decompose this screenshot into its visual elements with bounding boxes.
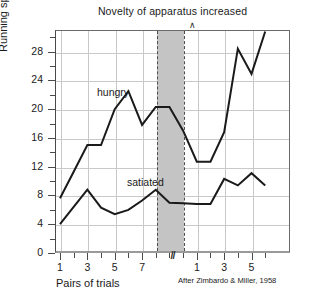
series-line-hungry	[60, 31, 265, 198]
series-lines	[0, 0, 310, 299]
figure-root: Novelty of apparatus increased ∧ Running…	[0, 0, 310, 299]
series-label-hungry: hungry	[97, 86, 129, 98]
series-label-satiated: satiated	[127, 176, 164, 188]
